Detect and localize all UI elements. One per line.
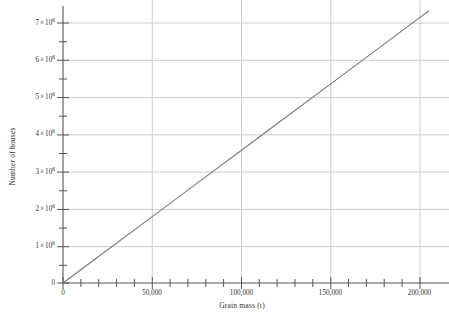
x-tick-label-100000: 100,000 (215, 289, 268, 297)
y-tick-label-7000000: 7×106 (8, 19, 55, 27)
plot-canvas (0, 0, 449, 323)
x-tick-label-50000: 50,000 (127, 289, 177, 297)
y-tick-label-5000000: 5×106 (8, 93, 55, 101)
x-axis-title: Grain mass (t) (63, 301, 421, 310)
y-tick-label-6000000: 6×106 (8, 56, 55, 64)
y-tick-label-0: 0 (8, 279, 55, 287)
chart-figure: 7×106 6×106 5×106 4×106 3×106 2×106 1×10… (0, 0, 449, 323)
x-tick-label-0: 0 (43, 289, 83, 297)
y-axis-title: Number of houses (8, 111, 17, 203)
y-tick-label-2000000: 2×106 (8, 205, 55, 213)
x-tick-label-200000: 200,000 (393, 289, 446, 297)
x-tick-label-150000: 150,000 (304, 289, 357, 297)
y-tick-label-1000000: 1×106 (8, 242, 55, 250)
